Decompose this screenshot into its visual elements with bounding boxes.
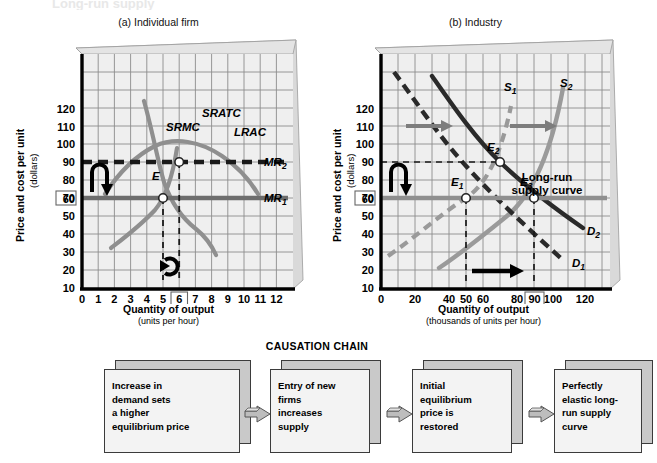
- label-srmc: SRMC: [166, 121, 201, 133]
- panel-a-y-highlight-value: 60: [63, 193, 75, 205]
- svg-text:30: 30: [362, 246, 374, 258]
- panel-industry: (b) Industry Price and cost per unit (do…: [317, 14, 634, 334]
- label-long-run-supply-line1: Long-run: [522, 171, 572, 183]
- chain-connector-2: [385, 403, 415, 427]
- svg-text:110: 110: [356, 121, 374, 133]
- point-e: [159, 194, 168, 203]
- chain-box-3-line-2: equilibrium: [420, 393, 505, 407]
- panel-individual-firm: (a) Individual firm Price and cost per u…: [0, 14, 317, 334]
- label-e: E: [152, 170, 160, 182]
- chain-box-1[interactable]: Increase in demand sets a higher equilib…: [104, 369, 240, 453]
- svg-text:50: 50: [362, 210, 374, 222]
- chain-box-3-line-3: price is: [420, 406, 505, 420]
- chain-box-3-line-1: Initial: [420, 379, 505, 393]
- svg-text:80: 80: [362, 174, 374, 186]
- chain-box-1-line-1: Increase in: [112, 379, 233, 393]
- panel-b-title: (b) Industry: [317, 16, 634, 28]
- chain-box-3-line-4: restored: [420, 420, 505, 434]
- point-mr2-intersection: [175, 158, 184, 167]
- svg-text:30: 30: [63, 246, 75, 258]
- chain-box-2-wrapper: Entry of new firms increases supply: [270, 360, 395, 452]
- svg-text:120: 120: [57, 103, 75, 115]
- panel-a-y-axis-label: Price and cost per unit: [14, 129, 26, 242]
- chain-box-3-wrapper: Initial equilibrium price is restored: [412, 360, 537, 452]
- chain-box-4[interactable]: Perfectly elastic long- run supply curve: [554, 369, 642, 453]
- panel-b-x-axis-label: Quantity of output: [325, 303, 642, 315]
- svg-text:120: 120: [356, 103, 374, 115]
- svg-text:40: 40: [63, 228, 75, 240]
- panel-a-bevel-top: [76, 40, 296, 54]
- panel-a-chart: SRMC SRATC LRAC E MR2 MR1 120 110 100 90…: [0, 14, 317, 304]
- chain-box-1-line-3: a higher: [112, 406, 233, 420]
- panel-b-chart: S1 S2 D1 D2 E1 E2 E3 Long-run supply cur…: [317, 14, 634, 304]
- svg-text:20: 20: [362, 264, 374, 276]
- svg-text:40: 40: [362, 228, 374, 240]
- chain-connector-1: [243, 403, 273, 427]
- svg-text:90: 90: [63, 156, 75, 168]
- chain-box-2[interactable]: Entry of new firms increases supply: [270, 369, 370, 453]
- chain-box-4-line-2: elastic long-: [562, 393, 635, 407]
- svg-text:20: 20: [63, 264, 75, 276]
- panel-a-x-axis-sublabel: (units per hour): [10, 316, 327, 326]
- svg-text:10: 10: [63, 282, 75, 294]
- svg-text:50: 50: [63, 210, 75, 222]
- panel-a-plot-background: [82, 54, 293, 289]
- chain-box-2-line-4: supply: [278, 420, 363, 434]
- svg-text:100: 100: [356, 138, 374, 150]
- panel-b-y-axis-label: Price and cost per unit: [331, 129, 343, 242]
- chain-box-4-wrapper: Perfectly elastic long- run supply curve: [554, 360, 657, 452]
- chain-box-2-line-2: firms: [278, 393, 363, 407]
- label-sratc: SRATC: [202, 107, 241, 119]
- panel-b-x-axis-sublabel: (thousands of units per hour): [325, 316, 642, 326]
- label-lrac: LRAC: [234, 126, 267, 138]
- point-e2: [496, 158, 505, 167]
- chain-box-4-line-3: run supply: [562, 406, 635, 420]
- cropped-figure-title: Long-run supply: [52, 0, 302, 10]
- svg-text:100: 100: [57, 138, 75, 150]
- chain-box-2-line-3: increases: [278, 406, 363, 420]
- panel-b-y-axis-sublabel: (dollars): [345, 154, 356, 188]
- svg-text:10: 10: [362, 282, 374, 294]
- svg-text:90: 90: [362, 156, 374, 168]
- label-long-run-supply-line2: supply curve: [512, 184, 583, 196]
- panel-b-y-highlight-value: 60: [362, 193, 374, 205]
- chain-box-4-line-4: curve: [562, 420, 635, 434]
- chain-box-4-line-1: Perfectly: [562, 379, 635, 393]
- arrow-right-3d-icon: [529, 406, 554, 422]
- causation-chain-title: CAUSATION CHAIN: [0, 340, 634, 352]
- chain-box-3[interactable]: Initial equilibrium price is restored: [412, 369, 512, 453]
- svg-text:110: 110: [57, 121, 75, 133]
- point-e1: [462, 194, 471, 203]
- panel-a-x-axis-label: Quantity of output: [10, 303, 327, 315]
- chain-box-1-wrapper: Increase in demand sets a higher equilib…: [104, 360, 252, 452]
- chain-box-1-line-4: equilibrium price: [112, 420, 233, 434]
- panel-a-title: (a) Individual firm: [0, 16, 317, 28]
- causation-chain: CAUSATION CHAIN Increase in demand sets …: [0, 340, 634, 463]
- panel-a-y-axis-sublabel: (dollars): [28, 154, 39, 188]
- arrow-right-3d-icon: [387, 406, 412, 422]
- chain-box-1-line-2: demand sets: [112, 393, 233, 407]
- arrow-right-3d-icon: [245, 406, 270, 422]
- panel-b-bevel-top: [375, 40, 613, 54]
- chain-box-2-line-1: Entry of new: [278, 379, 363, 393]
- svg-text:80: 80: [63, 174, 75, 186]
- chain-connector-3: [527, 403, 557, 427]
